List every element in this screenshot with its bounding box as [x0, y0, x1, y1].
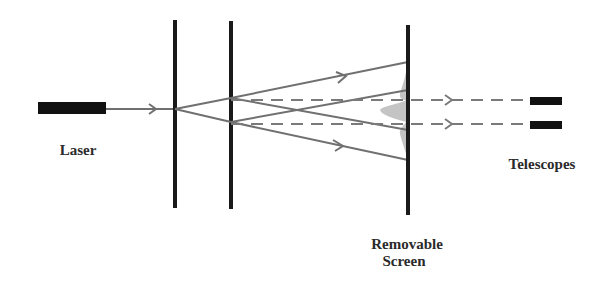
- telescopes-label: Telescopes: [500, 156, 584, 173]
- dashed-arrow-icon: [445, 95, 452, 105]
- ray-upper-slit-top: [231, 62, 408, 98]
- removable-screen-label: Removable Screen: [362, 236, 452, 270]
- ray-lower-slit-cross: [231, 90, 408, 122]
- interference-pattern: [380, 62, 408, 160]
- ray-upper-slit-cross: [231, 98, 408, 130]
- laser-body: [38, 102, 106, 114]
- ray-to-lower-slit: [175, 109, 231, 122]
- laser-label: Laser: [50, 142, 106, 159]
- ray-arrow-icon: [336, 72, 346, 83]
- dashed-arrow-icon: [445, 119, 452, 129]
- telescope-upper: [530, 97, 562, 105]
- removable-screen-label-line2: Screen: [356, 253, 452, 270]
- ray-to-upper-slit: [175, 98, 231, 109]
- telescope-lower: [530, 121, 562, 129]
- removable-screen-label-line1: Removable: [362, 236, 452, 253]
- ray-lower-slit-bottom: [231, 122, 408, 160]
